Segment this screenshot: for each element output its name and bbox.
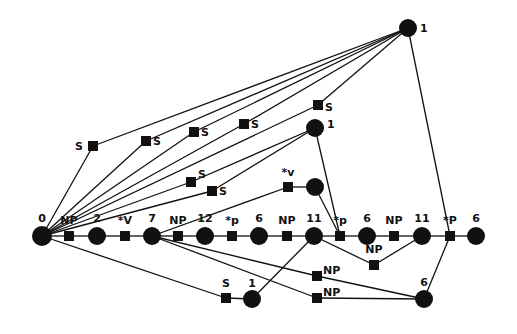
arc-node xyxy=(141,136,151,146)
node-label: NP xyxy=(323,264,340,277)
node-label: 0 xyxy=(38,212,46,225)
node-label: NP xyxy=(278,214,295,227)
node-label: 6 xyxy=(420,276,428,289)
edge-n7-np10 xyxy=(152,236,317,276)
node-label: NP xyxy=(365,243,382,256)
arc-node xyxy=(120,231,130,241)
arc-node xyxy=(88,141,98,151)
edge-a8-low6 xyxy=(424,236,450,299)
arc-node xyxy=(335,231,345,241)
node-label: S xyxy=(219,185,227,198)
state-node xyxy=(306,178,324,196)
arc-node xyxy=(445,231,455,241)
arc-node xyxy=(207,186,217,196)
edge-low1-n11a xyxy=(252,236,314,299)
state-node xyxy=(143,227,161,245)
arc-node xyxy=(312,271,322,281)
node-label: *P xyxy=(443,214,457,227)
arc-node xyxy=(64,231,74,241)
node-label: S xyxy=(75,140,83,153)
node-label: S xyxy=(222,277,230,290)
state-node xyxy=(250,227,268,245)
node-label: 7 xyxy=(148,212,156,225)
node-label: 1 xyxy=(248,277,256,290)
state-node xyxy=(88,227,106,245)
edge-s5-top1 xyxy=(318,28,408,105)
node-label: 6 xyxy=(363,212,371,225)
node-label: *p xyxy=(225,214,239,227)
arc-node xyxy=(369,260,379,270)
node-label: *p xyxy=(333,214,347,227)
nodes-layer xyxy=(32,19,485,308)
node-label: 11 xyxy=(306,212,321,225)
edge-s3-top1 xyxy=(194,28,408,132)
arc-node xyxy=(283,182,293,192)
state-node xyxy=(305,227,323,245)
edge-n7-np11 xyxy=(152,236,317,298)
edge-s7-mid1 xyxy=(212,128,315,191)
edges-layer xyxy=(42,28,476,299)
state-node xyxy=(306,119,324,137)
arc-node xyxy=(173,231,183,241)
node-label: *V xyxy=(118,214,133,227)
edge-n0-s6 xyxy=(42,182,191,236)
node-label: 1 xyxy=(327,118,335,131)
arc-node xyxy=(312,293,322,303)
node-label: S xyxy=(201,126,209,139)
node-label: NP xyxy=(323,286,340,299)
edge-n0-s8 xyxy=(42,236,226,298)
parse-lattice-diagram: 0NP2*V7NP12*p6NP11*p6NP11*P61SSSSS1SS*vN… xyxy=(0,0,517,334)
node-label: S xyxy=(153,135,161,148)
node-label: S xyxy=(325,101,333,114)
state-node xyxy=(413,227,431,245)
arc-node xyxy=(282,231,292,241)
node-label: NP xyxy=(169,214,186,227)
arc-node xyxy=(313,100,323,110)
node-label: 11 xyxy=(414,212,429,225)
arc-node xyxy=(227,231,237,241)
arc-node xyxy=(221,293,231,303)
node-label: NP xyxy=(60,214,77,227)
node-label: 2 xyxy=(93,212,101,225)
state-node xyxy=(32,226,52,246)
state-node xyxy=(196,227,214,245)
state-node xyxy=(399,19,417,37)
arc-node xyxy=(389,231,399,241)
arc-node xyxy=(239,119,249,129)
node-label: 6 xyxy=(255,212,263,225)
state-node xyxy=(243,290,261,308)
node-label: *v xyxy=(282,166,296,179)
edge-top1-a8 xyxy=(408,28,450,236)
node-label: S xyxy=(251,118,259,131)
node-label: 12 xyxy=(197,212,212,225)
node-label: 6 xyxy=(472,212,480,225)
node-label: 1 xyxy=(420,22,428,35)
node-label: S xyxy=(198,168,206,181)
state-node xyxy=(467,227,485,245)
node-label: NP xyxy=(385,214,402,227)
state-node xyxy=(415,290,433,308)
arc-node xyxy=(189,127,199,137)
arc-node xyxy=(186,177,196,187)
